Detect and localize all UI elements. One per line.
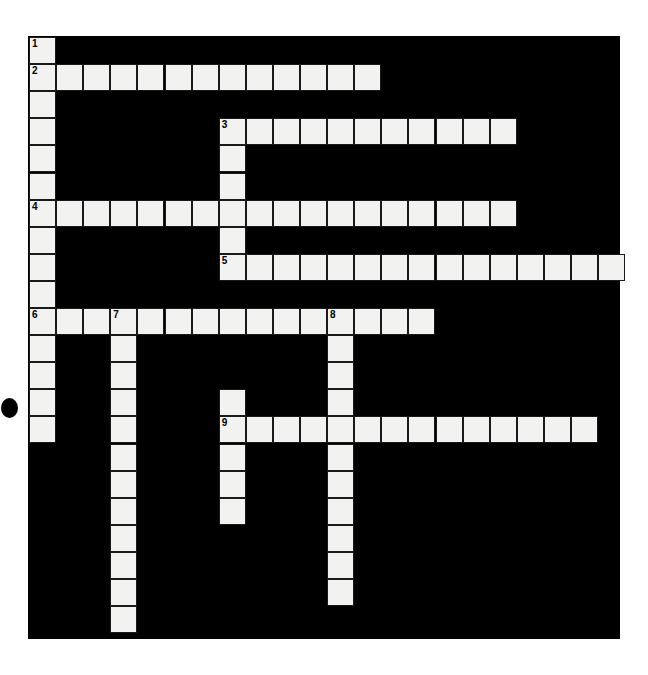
crossword-cell[interactable] (463, 200, 490, 227)
crossword-cell[interactable] (29, 145, 56, 172)
crossword-cell[interactable] (463, 118, 490, 145)
crossword-cell[interactable] (300, 200, 327, 227)
crossword-cell[interactable] (219, 227, 246, 254)
crossword-cell[interactable] (192, 308, 219, 335)
crossword-cell[interactable] (490, 416, 517, 443)
crossword-cell[interactable] (408, 118, 435, 145)
crossword-cell[interactable] (354, 254, 381, 281)
crossword-cell[interactable] (381, 308, 408, 335)
crossword-cell[interactable] (110, 335, 137, 362)
crossword-cell-start-7[interactable]: 7 (110, 308, 137, 335)
crossword-cell[interactable] (29, 118, 56, 145)
crossword-cell[interactable] (408, 308, 435, 335)
crossword-cell[interactable] (83, 64, 110, 91)
crossword-cell[interactable] (29, 335, 56, 362)
crossword-cell[interactable] (436, 254, 463, 281)
crossword-cell[interactable] (246, 416, 273, 443)
crossword-cell[interactable] (327, 64, 354, 91)
crossword-cell[interactable] (29, 254, 56, 281)
crossword-cell[interactable] (354, 416, 381, 443)
crossword-cell[interactable] (273, 416, 300, 443)
crossword-cell[interactable] (327, 579, 354, 606)
crossword-cell[interactable] (381, 118, 408, 145)
crossword-cell[interactable] (246, 118, 273, 145)
crossword-cell-start-9[interactable]: 9 (219, 416, 246, 443)
crossword-cell-start-3[interactable]: 3 (219, 118, 246, 145)
crossword-cell[interactable] (273, 118, 300, 145)
crossword-cell[interactable] (246, 308, 273, 335)
crossword-cell[interactable] (381, 200, 408, 227)
crossword-cell[interactable] (327, 498, 354, 525)
crossword-cell[interactable] (327, 389, 354, 416)
crossword-cell[interactable] (354, 308, 381, 335)
crossword-cell[interactable] (219, 444, 246, 471)
crossword-cell[interactable] (219, 145, 246, 172)
crossword-cell[interactable] (110, 200, 137, 227)
crossword-cell[interactable] (490, 254, 517, 281)
crossword-cell-start-5[interactable]: 5 (219, 254, 246, 281)
crossword-cell[interactable] (110, 64, 137, 91)
crossword-cell[interactable] (463, 416, 490, 443)
crossword-cell[interactable] (137, 308, 164, 335)
crossword-cell[interactable] (29, 281, 56, 308)
crossword-cell[interactable] (327, 335, 354, 362)
crossword-cell[interactable] (29, 227, 56, 254)
crossword-cell[interactable] (408, 416, 435, 443)
crossword-cell[interactable] (110, 416, 137, 443)
crossword-cell[interactable] (110, 606, 137, 633)
crossword-cell[interactable] (381, 254, 408, 281)
crossword-cell[interactable] (327, 200, 354, 227)
crossword-cell[interactable] (354, 118, 381, 145)
crossword-cell[interactable] (354, 200, 381, 227)
crossword-cell[interactable] (598, 254, 625, 281)
crossword-cell[interactable] (327, 416, 354, 443)
crossword-cell[interactable] (137, 64, 164, 91)
crossword-cell-start-4[interactable]: 4 (29, 200, 56, 227)
crossword-cell-start-8[interactable]: 8 (327, 308, 354, 335)
crossword-cell[interactable] (327, 471, 354, 498)
crossword-cell[interactable] (436, 416, 463, 443)
crossword-cell[interactable] (517, 254, 544, 281)
crossword-cell[interactable] (83, 308, 110, 335)
crossword-cell[interactable] (300, 64, 327, 91)
crossword-cell-start-6[interactable]: 6 (29, 308, 56, 335)
crossword-cell[interactable] (490, 118, 517, 145)
crossword-cell[interactable] (219, 308, 246, 335)
crossword-cell[interactable] (137, 200, 164, 227)
crossword-cell[interactable] (29, 362, 56, 389)
crossword-cell[interactable] (192, 64, 219, 91)
crossword-cell-start-1[interactable]: 1 (29, 37, 56, 64)
crossword-cell[interactable] (110, 389, 137, 416)
crossword-cell[interactable] (110, 525, 137, 552)
crossword-cell[interactable] (327, 118, 354, 145)
crossword-cell[interactable] (327, 525, 354, 552)
crossword-cell[interactable] (110, 471, 137, 498)
crossword-cell[interactable] (408, 254, 435, 281)
crossword-cell[interactable] (327, 552, 354, 579)
crossword-cell[interactable] (300, 254, 327, 281)
crossword-cell[interactable] (463, 254, 490, 281)
crossword-cell[interactable] (490, 200, 517, 227)
crossword-cell[interactable] (110, 498, 137, 525)
crossword-cell[interactable] (544, 416, 571, 443)
crossword-cell[interactable] (246, 64, 273, 91)
crossword-cell[interactable] (219, 471, 246, 498)
crossword-cell[interactable] (544, 254, 571, 281)
crossword-cell[interactable] (110, 579, 137, 606)
crossword-cell[interactable] (110, 362, 137, 389)
crossword-cell[interactable] (354, 64, 381, 91)
crossword-cell[interactable] (29, 389, 56, 416)
crossword-cell[interactable] (571, 416, 598, 443)
crossword-cell[interactable] (273, 254, 300, 281)
crossword-cell[interactable] (192, 200, 219, 227)
crossword-cell[interactable] (273, 64, 300, 91)
crossword-cell[interactable] (165, 64, 192, 91)
crossword-cell[interactable] (165, 308, 192, 335)
crossword-cell[interactable] (327, 362, 354, 389)
crossword-cell[interactable] (517, 416, 544, 443)
crossword-cell[interactable] (246, 200, 273, 227)
crossword-cell[interactable] (83, 200, 110, 227)
crossword-cell[interactable] (300, 118, 327, 145)
crossword-cell[interactable] (436, 200, 463, 227)
crossword-cell[interactable] (300, 308, 327, 335)
